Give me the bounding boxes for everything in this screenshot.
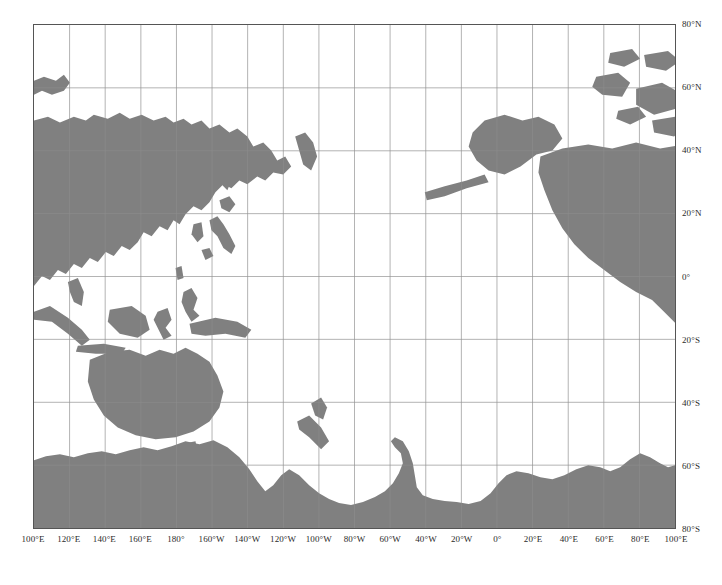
land-arctic-isles-c	[652, 117, 675, 137]
x-tick-label: 100°E	[664, 534, 687, 544]
x-tick-label: 20°E	[524, 534, 543, 544]
land-kamchatka	[295, 133, 317, 171]
x-tick-label: 80°W	[344, 534, 366, 544]
land-nz-south	[297, 415, 329, 449]
y-tick-label: 20°N	[682, 208, 702, 218]
x-tick-label: 40°E	[560, 534, 579, 544]
land-arctic-isles-b	[608, 49, 640, 67]
y-tick-label: 20°S	[682, 335, 700, 345]
x-tick-label: 180°	[167, 534, 185, 544]
land-philippines	[182, 288, 200, 322]
land-asia-mainland	[34, 75, 70, 95]
land-arctic-isles-a	[644, 51, 675, 71]
y-tick-label: 40°S	[682, 398, 700, 408]
x-tick-label: 60°W	[379, 534, 401, 544]
land-new-guinea	[190, 318, 252, 338]
world-map-figure: 100°E 120°E 140°E 160°E 180° 160°W 140°W…	[0, 0, 722, 585]
y-tick-label: 0°	[682, 272, 690, 282]
world-map-svg	[34, 25, 675, 528]
x-tick-label: 80°E	[631, 534, 650, 544]
x-tick-label: 40°W	[415, 534, 437, 544]
y-tick-label: 80°N	[682, 19, 702, 29]
x-tick-label: 20°W	[451, 534, 473, 544]
y-tick-label: 40°N	[682, 145, 702, 155]
map-plot-area[interactable]	[33, 24, 676, 529]
land-japan-hokkaido	[219, 196, 235, 212]
x-tick-label: 140°E	[93, 534, 116, 544]
land-japan-kyushu	[201, 248, 213, 260]
x-tick-label: 100°E	[21, 534, 44, 544]
y-tick-label: 80°S	[682, 524, 700, 534]
land-aleutians	[425, 174, 489, 200]
land-malay-peninsula	[68, 278, 84, 306]
land-banks-island	[592, 73, 630, 97]
x-tick-label: 160°W	[199, 534, 225, 544]
land-siberia-china	[34, 113, 291, 286]
land-australia	[88, 348, 224, 440]
land-sulawesi	[154, 308, 172, 340]
y-tick-label: 60°S	[682, 461, 700, 471]
land-north-america	[538, 143, 675, 332]
x-tick-label: 120°W	[270, 534, 296, 544]
x-tick-label: 140°W	[234, 534, 260, 544]
land-japan-honshu	[209, 216, 235, 254]
land-sumatra	[34, 306, 90, 346]
x-tick-label: 100°W	[306, 534, 332, 544]
x-tick-label: 60°E	[595, 534, 614, 544]
x-tick-label: 160°E	[129, 534, 152, 544]
y-tick-label: 60°N	[682, 82, 702, 92]
land-borneo	[108, 306, 150, 338]
x-tick-label: 0°	[493, 534, 501, 544]
land-korea	[192, 222, 204, 242]
x-tick-label: 120°E	[57, 534, 80, 544]
land-arctic-isles-d	[616, 107, 646, 125]
